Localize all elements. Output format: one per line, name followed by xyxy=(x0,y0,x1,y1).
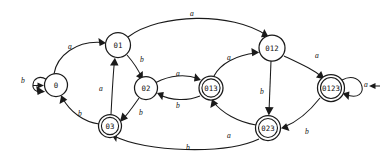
state-node-02-label: 02 xyxy=(141,84,150,93)
edge-label-023-013: a xyxy=(227,131,231,140)
state-node-02[interactable]: 02 xyxy=(135,77,158,100)
edge-012-023-arrowhead xyxy=(265,107,274,115)
state-node-0-label: 0 xyxy=(54,81,59,90)
edge-label-0123-023: b xyxy=(305,127,309,136)
edge-013-012-arrowhead xyxy=(251,48,259,56)
state-node-0123[interactable]: 0123 xyxy=(318,75,345,102)
edge-02-013-arrowhead xyxy=(194,73,201,81)
edge-label-02-013: a xyxy=(176,69,180,78)
state-node-03-label: 03 xyxy=(105,122,114,131)
state-node-01-label: 01 xyxy=(113,41,122,50)
edge-label-013-012: a xyxy=(227,53,231,62)
edge-label-03-01: a xyxy=(99,84,103,93)
edge-03-01 xyxy=(111,61,115,115)
edge-0123-023-arrowhead xyxy=(281,123,290,131)
state-node-012-label: 012 xyxy=(265,44,279,53)
edge-013-012 xyxy=(214,53,256,76)
edge-012-023 xyxy=(269,61,271,112)
edge-03-0-arrowhead xyxy=(60,95,68,104)
state-node-03[interactable]: 03 xyxy=(99,115,122,138)
edge-label-02-03: b xyxy=(139,108,143,117)
state-node-0123-label: 0123 xyxy=(322,84,340,93)
edge-03-01-arrowhead xyxy=(110,58,119,66)
edge-0-0-inner-arrowhead xyxy=(38,82,45,88)
edge-label-01-02: b xyxy=(140,55,144,64)
state-diagram-canvas: 0 01 02 03 013 xyxy=(0,0,392,162)
edge-label-012-0123: a xyxy=(315,51,319,60)
edge-label-013-02: b xyxy=(176,101,180,110)
state-node-013[interactable]: 013 xyxy=(199,76,223,100)
edge-label-01-012: a xyxy=(190,9,194,18)
edge-label-023-03: b xyxy=(186,143,190,152)
edge-01-012 xyxy=(128,18,266,37)
state-node-023[interactable]: 023 xyxy=(256,116,281,141)
edge-label-03-0: b xyxy=(78,109,82,118)
edge-0123-023 xyxy=(284,98,320,127)
state-node-01[interactable]: 01 xyxy=(106,33,131,58)
edge-0123-0123-inner-arrowhead xyxy=(369,83,376,89)
nodes-layer: 0 01 02 03 013 xyxy=(45,33,345,141)
edge-013-02 xyxy=(160,95,201,100)
automaton-graph: 0 01 02 03 013 xyxy=(0,0,392,162)
edge-label-0123-0123: a xyxy=(364,80,368,89)
edge-023-013 xyxy=(214,102,257,125)
edge-013-02-arrowhead xyxy=(157,92,164,100)
edge-label-012-023: b xyxy=(260,87,264,96)
edge-0-0-arrowhead xyxy=(36,86,44,95)
state-node-0[interactable]: 0 xyxy=(45,74,68,97)
edge-0-01 xyxy=(54,42,103,74)
state-node-013-label: 013 xyxy=(204,84,218,93)
edge-label-0-01: a xyxy=(68,42,72,51)
state-node-023-label: 023 xyxy=(261,124,275,133)
edge-0-01-arrowhead xyxy=(98,38,106,46)
state-node-012[interactable]: 012 xyxy=(259,35,285,61)
edge-label-0-0: b xyxy=(21,76,25,85)
